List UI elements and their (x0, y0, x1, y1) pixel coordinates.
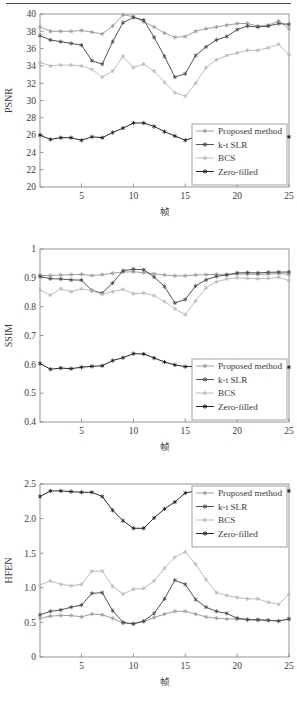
x-axis-label: 帧 (160, 441, 170, 452)
y-tick-label: 24 (27, 148, 37, 158)
legend-label: k-t SLR (218, 140, 248, 150)
plot-psnr: 2022242628303234363840510152025PSNR帧Prop… (0, 0, 297, 235)
series-bcs (38, 275, 291, 317)
legend-label: BCS (218, 515, 235, 525)
figure-page: 2022242628303234363840510152025PSNR帧Prop… (0, 0, 297, 706)
y-tick-label: 1 (31, 244, 36, 254)
y-tick-label: 2.0 (24, 514, 36, 524)
legend-label: Proposed method (218, 488, 282, 498)
series-k-t-slr (38, 267, 291, 305)
legend-label: Zero-filled (218, 529, 258, 539)
x-tick-label: 15 (181, 191, 191, 201)
y-tick-label: 2.5 (24, 479, 36, 489)
y-tick-label: 22 (27, 165, 37, 175)
y-tick-label: 1.0 (24, 583, 36, 593)
x-axis-label: 帧 (160, 676, 170, 687)
plot-ssim: 0.40.50.60.70.80.91510152025SSIM帧Propose… (0, 235, 297, 470)
y-axis-label: HFEN (3, 557, 14, 583)
y-tick-label: 0.8 (24, 302, 36, 312)
x-tick-label: 5 (79, 426, 84, 436)
y-tick-label: 34 (27, 61, 37, 71)
x-tick-label: 25 (284, 661, 294, 671)
x-tick-label: 10 (129, 426, 139, 436)
y-axis-label: PSNR (3, 88, 14, 113)
series-bcs (38, 42, 291, 98)
y-tick-label: 0.6 (24, 360, 36, 370)
legend: Proposed methodk-t SLRBCSZero-filled (192, 486, 287, 547)
y-tick-label: 32 (27, 79, 37, 89)
legend-label: Zero-filled (218, 402, 258, 412)
y-tick-label: 0.5 (24, 388, 36, 398)
y-tick-label: 0.9 (24, 273, 36, 283)
legend: Proposed methodk-t SLRBCSZero-filled (192, 124, 287, 185)
legend-label: BCS (218, 388, 235, 398)
y-tick-label: 20 (27, 182, 37, 192)
x-tick-label: 5 (79, 191, 84, 201)
y-tick-label: 0 (31, 652, 36, 662)
y-tick-label: 30 (27, 96, 37, 106)
series-proposed-method (38, 609, 291, 626)
series-proposed-method (38, 270, 291, 278)
chart-psnr: 2022242628303234363840510152025PSNR帧Prop… (0, 0, 297, 235)
y-tick-label: 0.5 (24, 618, 36, 628)
y-tick-label: 26 (27, 130, 37, 140)
legend-label: k-t SLR (218, 375, 248, 385)
x-tick-label: 20 (232, 661, 242, 671)
y-tick-label: 38 (27, 27, 37, 37)
x-tick-label: 10 (129, 661, 139, 671)
y-tick-label: 0.7 (24, 331, 36, 341)
y-tick-label: 36 (27, 44, 37, 54)
y-tick-label: 0.4 (24, 417, 36, 427)
legend: Proposed methodk-t SLRBCSZero-filled (192, 359, 287, 420)
legend-label: k-t SLR (218, 502, 248, 512)
x-tick-label: 25 (284, 426, 294, 436)
y-axis-label: SSIM (3, 324, 14, 347)
x-tick-label: 20 (232, 426, 242, 436)
x-tick-label: 15 (181, 661, 191, 671)
x-tick-label: 10 (129, 191, 139, 201)
y-tick-label: 28 (27, 113, 37, 123)
x-tick-label: 5 (79, 661, 84, 671)
x-tick-label: 15 (181, 426, 191, 436)
legend-label: BCS (218, 153, 235, 163)
x-tick-label: 20 (232, 191, 242, 201)
y-tick-label: 1.5 (24, 549, 36, 559)
legend-label: Proposed method (218, 126, 282, 136)
legend-label: Proposed method (218, 361, 282, 371)
chart-hfen: 00.51.01.52.02.5510152025HFEN帧Proposed m… (0, 470, 297, 705)
legend-label: Zero-filled (218, 167, 258, 177)
x-tick-label: 25 (284, 191, 294, 201)
y-tick-label: 40 (27, 9, 37, 19)
x-axis-label: 帧 (160, 206, 170, 217)
chart-ssim: 0.40.50.60.70.80.91510152025SSIM帧Propose… (0, 235, 297, 470)
plot-hfen: 00.51.01.52.02.5510152025HFEN帧Proposed m… (0, 470, 297, 705)
